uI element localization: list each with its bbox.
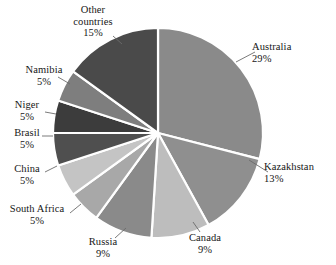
pie-label-south-africa-value: 5% [2,215,72,227]
pie-label-canada-value: 9% [177,244,233,256]
pie-label-other-countries-name-line2: countries [62,16,124,28]
pie-label-brasil: Brasil 5% [6,127,48,150]
pie-label-niger-value: 5% [6,111,48,123]
pie-label-other-countries-name-line1: Other [62,4,124,16]
pie-label-south-africa-name: South Africa [2,203,72,215]
pie-label-namibia: Namibia 5% [16,64,72,87]
pie-label-china-value: 5% [6,175,48,187]
pie-label-kazakhstan-value: 13% [264,173,314,185]
pie-label-kazakhstan-name: Kazakhstan [264,161,314,173]
pie-label-australia: Australia 29% [252,41,291,64]
pie-label-canada-name: Canada [177,232,233,244]
pie-label-china-name: China [6,163,48,175]
pie-label-russia-value: 9% [78,248,128,260]
pie-label-canada: Canada 9% [177,232,233,255]
pie-label-south-africa: South Africa 5% [2,203,72,226]
pie-label-russia-name: Russia [78,236,128,248]
pie-label-niger: Niger 5% [6,99,48,122]
pie-slices-group [53,28,263,238]
pie-label-other-countries-value: 15% [62,27,124,39]
pie-label-china: China 5% [6,163,48,186]
pie-label-russia: Russia 9% [78,236,128,259]
pie-label-australia-value: 29% [252,53,291,65]
pie-label-brasil-name: Brasil [6,127,48,139]
pie-label-namibia-value: 5% [16,76,72,88]
pie-label-australia-name: Australia [252,41,291,53]
pie-label-other-countries: Other countries 15% [62,4,124,39]
pie-label-kazakhstan: Kazakhstan 13% [264,161,314,184]
pie-label-niger-name: Niger [6,99,48,111]
pie-label-namibia-name: Namibia [16,64,72,76]
pie-chart: Australia 29% Kazakhstan 13% Canada 9% R… [0,0,336,265]
pie-label-brasil-value: 5% [6,139,48,151]
